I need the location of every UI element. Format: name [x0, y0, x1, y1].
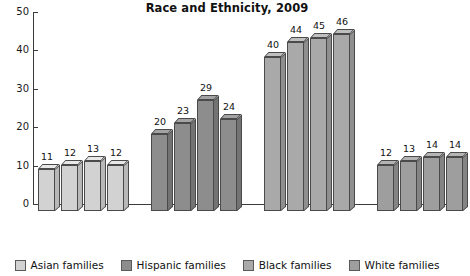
bar-value-label: 20	[145, 117, 175, 127]
bar-side-face	[78, 160, 83, 211]
bar-side-face	[440, 153, 445, 211]
bar-side-face	[124, 160, 129, 211]
legend-item[interactable]: Asian families	[15, 260, 104, 271]
bar[interactable]: 24	[220, 119, 237, 211]
legend-label: Black families	[259, 260, 332, 271]
bar-value-label: 46	[327, 17, 357, 27]
bar-side-face	[237, 114, 242, 211]
bar-front-face	[287, 42, 304, 211]
bar-side-face	[463, 153, 468, 211]
bar[interactable]: 12	[61, 165, 78, 211]
bar-front-face	[107, 165, 124, 211]
bar-group: 11121312	[38, 7, 124, 212]
y-axis-tick-label: 0	[0, 199, 29, 209]
bar-group: 20232924	[151, 7, 237, 212]
bar[interactable]: 29	[197, 100, 214, 211]
bar-front-face	[220, 119, 237, 211]
bar-group: 40444546	[264, 7, 350, 212]
bar-value-label: 12	[101, 148, 131, 158]
legend-item[interactable]: Black families	[243, 260, 332, 271]
bar-front-face	[174, 123, 191, 211]
bar[interactable]: 13	[400, 161, 417, 211]
y-axis-line	[33, 12, 34, 205]
legend-label: Asian families	[31, 260, 104, 271]
bar-group: 12131414	[377, 7, 463, 212]
bar-front-face	[151, 134, 168, 211]
bar-value-label: 24	[214, 102, 244, 112]
bar-side-face	[304, 38, 309, 211]
chart-legend: Asian familiesHispanic familiesBlack fam…	[0, 256, 454, 274]
bar-side-face	[394, 160, 399, 211]
bar[interactable]: 23	[174, 123, 191, 211]
bar-front-face	[61, 165, 78, 211]
y-axis-tick-label: 40	[0, 45, 29, 55]
y-axis-tick-label: 20	[0, 122, 29, 132]
bar-front-face	[38, 169, 55, 211]
bar[interactable]: 14	[446, 157, 463, 211]
bar-front-face	[333, 34, 350, 211]
bar[interactable]: 20	[151, 134, 168, 211]
bar-side-face	[327, 34, 332, 211]
legend-swatch	[243, 260, 254, 271]
y-axis-tick-label: 30	[0, 84, 29, 94]
bar[interactable]: 14	[423, 157, 440, 211]
bar[interactable]: 45	[310, 38, 327, 211]
bar[interactable]: 12	[107, 165, 124, 211]
bar[interactable]: 44	[287, 42, 304, 211]
bar-side-face	[281, 53, 286, 211]
bar-side-face	[191, 118, 196, 211]
bar-front-face	[310, 38, 327, 211]
bar-front-face	[197, 100, 214, 211]
legend-swatch	[121, 260, 132, 271]
bar-side-face	[101, 157, 106, 211]
legend-item[interactable]: Hispanic families	[121, 260, 226, 271]
plot-area: 01020304050 1980199020002008111213121980…	[0, 0, 454, 212]
bar-front-face	[446, 157, 463, 211]
legend-swatch	[15, 260, 26, 271]
bar-value-label: 23	[168, 106, 198, 116]
bar-front-face	[423, 157, 440, 211]
bar[interactable]: 13	[84, 161, 101, 211]
bar-side-face	[55, 164, 60, 211]
bar-value-label: 29	[191, 83, 221, 93]
y-axis-tick-label: 50	[0, 7, 29, 17]
bar-side-face	[214, 95, 219, 211]
bar-value-label: 14	[440, 140, 470, 150]
bar-side-face	[417, 157, 422, 211]
bar-front-face	[377, 165, 394, 211]
legend-item[interactable]: White families	[349, 260, 440, 271]
bar-side-face	[350, 30, 355, 211]
bar-value-label: 40	[258, 40, 288, 50]
bar[interactable]: 40	[264, 57, 281, 211]
bar-front-face	[84, 161, 101, 211]
bar[interactable]: 11	[38, 169, 55, 211]
legend-label: White families	[365, 260, 440, 271]
y-axis-tick-label: 10	[0, 161, 29, 171]
legend-label: Hispanic families	[137, 260, 226, 271]
bar-front-face	[400, 161, 417, 211]
bar[interactable]: 46	[333, 34, 350, 211]
bar-front-face	[264, 57, 281, 211]
legend-swatch	[349, 260, 360, 271]
bar-side-face	[168, 130, 173, 211]
bar[interactable]: 12	[377, 165, 394, 211]
